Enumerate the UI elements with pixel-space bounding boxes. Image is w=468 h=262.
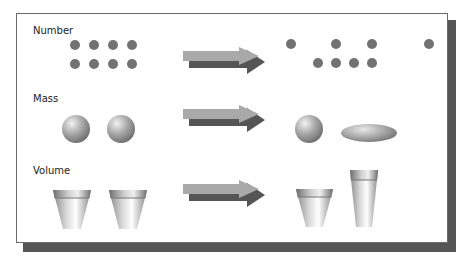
dot	[367, 58, 377, 68]
clay-ball	[62, 115, 90, 143]
clay-ball	[107, 115, 135, 143]
row-label-mass: Mass	[33, 93, 58, 104]
dot	[424, 39, 434, 49]
dot	[108, 40, 118, 50]
right-arrow-icon	[183, 47, 267, 75]
dot	[127, 40, 137, 50]
right-arrow-icon	[183, 180, 267, 208]
short-cup-icon	[109, 190, 147, 230]
dot	[127, 59, 137, 69]
flattened-clay	[341, 124, 397, 142]
right-arrow-icon	[183, 105, 267, 133]
row-label-number: Number	[33, 25, 73, 36]
dot	[89, 40, 99, 50]
dot	[367, 39, 377, 49]
dot	[108, 59, 118, 69]
clay-ball	[295, 115, 323, 143]
tall-cup-icon	[350, 170, 378, 228]
dot	[70, 59, 80, 69]
dot	[70, 40, 80, 50]
dot	[349, 58, 359, 68]
dot	[89, 59, 99, 69]
row-label-volume: Volume	[33, 165, 70, 176]
dot	[331, 39, 341, 49]
dot	[331, 58, 341, 68]
dot	[313, 58, 323, 68]
dot	[286, 39, 296, 49]
short-cup-icon	[296, 189, 333, 228]
short-cup-icon	[53, 190, 91, 230]
